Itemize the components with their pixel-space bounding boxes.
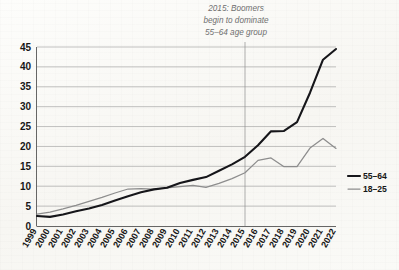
y-tick-10: 10 xyxy=(20,181,32,192)
annotation-line-1: 2015: Boomers xyxy=(207,4,264,13)
y-tick-20: 20 xyxy=(20,141,32,152)
x-axis-tick-labels: 1999200020012002200320042005200620072008… xyxy=(20,227,338,249)
y-tick-15: 15 xyxy=(20,161,32,172)
annotation-line-3: 55–64 age group xyxy=(205,28,267,37)
series-line-18-25 xyxy=(37,138,336,214)
chart-annotation: 2015: Boomers begin to dominate 55–64 ag… xyxy=(203,4,269,37)
series-line-55-64 xyxy=(37,49,336,217)
y-tick-45: 45 xyxy=(20,42,32,53)
legend-label-55-64: 55–64 xyxy=(363,171,387,181)
y-axis-tick-labels: 051015202530354045 xyxy=(20,42,32,232)
y-tick-30: 30 xyxy=(20,101,32,112)
chart-legend: 55–64 18–25 xyxy=(348,171,387,194)
y-tick-35: 35 xyxy=(20,81,32,92)
y-tick-5: 5 xyxy=(25,201,31,212)
line-chart: 2015: Boomers begin to dominate 55–64 ag… xyxy=(0,0,399,270)
y-tick-25: 25 xyxy=(20,121,32,132)
chart-canvas: 2015: Boomers begin to dominate 55–64 ag… xyxy=(0,0,399,270)
legend-label-18-25: 18–25 xyxy=(363,184,387,194)
annotation-line-2: begin to dominate xyxy=(203,16,269,25)
y-tick-40: 40 xyxy=(20,61,32,72)
